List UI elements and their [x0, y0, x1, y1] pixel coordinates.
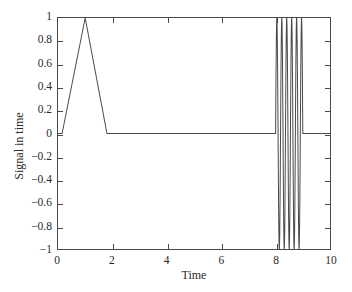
y-tick-mark-right: [325, 181, 330, 182]
x-tick-mark: [113, 244, 114, 249]
x-tick-label: 4: [147, 255, 187, 267]
y-tick-mark-right: [325, 111, 330, 112]
x-tick-label: 8: [256, 255, 296, 267]
x-tick-mark: [168, 244, 169, 249]
y-tick-mark: [58, 204, 63, 205]
y-tick-mark: [58, 135, 63, 136]
x-tick-label: 0: [37, 255, 77, 267]
x-tick-mark-top: [277, 18, 278, 23]
y-tick-mark: [58, 41, 63, 42]
y-tick-mark: [58, 181, 63, 182]
y-tick-mark-right: [325, 65, 330, 66]
x-tick-label: 10: [311, 255, 351, 267]
x-tick-label: 2: [92, 255, 132, 267]
y-tick-mark: [58, 65, 63, 66]
x-axis-title: Time: [57, 268, 331, 283]
y-tick-mark-right: [325, 204, 330, 205]
y-tick-mark: [58, 88, 63, 89]
y-tick-label: 0: [6, 128, 52, 140]
y-tick-label: −0.4: [6, 174, 52, 186]
plot-area: [57, 17, 331, 250]
y-tick-mark-right: [325, 135, 330, 136]
x-tick-label: 6: [201, 255, 241, 267]
y-tick-mark-right: [325, 158, 330, 159]
y-tick-mark-right: [325, 41, 330, 42]
x-tick-mark-top: [168, 18, 169, 23]
signal-series-path: [58, 18, 330, 249]
y-tick-label: 0.6: [6, 58, 52, 70]
y-tick-mark-right: [325, 228, 330, 229]
y-tick-label: 1: [6, 11, 52, 23]
y-tick-label: −0.2: [6, 151, 52, 163]
figure-container: Signal in time −1−0.8−0.6−0.4−0.200.20.4…: [0, 0, 352, 292]
x-tick-mark-top: [113, 18, 114, 23]
x-tick-mark-top: [222, 18, 223, 23]
y-tick-label: 0.8: [6, 34, 52, 46]
y-tick-label: 0.2: [6, 104, 52, 116]
y-tick-mark-right: [325, 88, 330, 89]
y-tick-mark: [58, 111, 63, 112]
y-tick-label: 0.4: [6, 81, 52, 93]
y-tick-label: −0.8: [6, 221, 52, 233]
x-tick-mark: [222, 244, 223, 249]
x-tick-mark: [277, 244, 278, 249]
y-tick-label: −0.6: [6, 197, 52, 209]
y-tick-mark: [58, 228, 63, 229]
signal-line-chart: [58, 18, 330, 249]
y-tick-mark: [58, 158, 63, 159]
y-tick-label: −1: [6, 244, 52, 256]
